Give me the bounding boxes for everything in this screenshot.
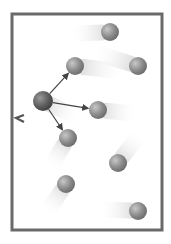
particle xyxy=(89,101,107,119)
particle xyxy=(101,23,119,41)
gas-particles-diagram xyxy=(0,0,171,244)
particle xyxy=(59,129,77,147)
particle xyxy=(129,57,147,75)
central-particle xyxy=(33,91,53,111)
particle xyxy=(57,175,75,193)
container-wall xyxy=(12,14,162,230)
particle xyxy=(109,154,127,172)
particle xyxy=(66,57,84,75)
particle xyxy=(129,202,147,220)
